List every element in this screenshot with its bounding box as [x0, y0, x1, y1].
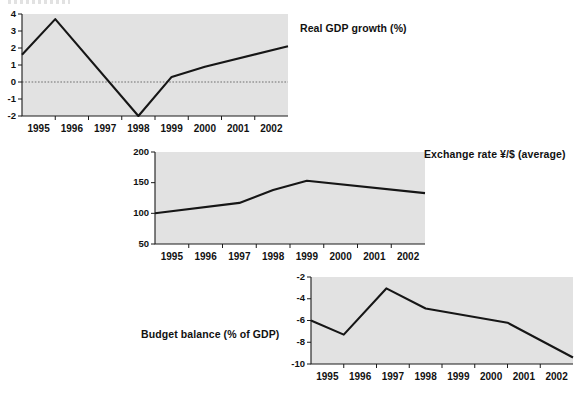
chart-real-gdp-growth: -2-1012341995199619971998199920002001200…: [0, 8, 300, 138]
chart-budget-balance: -10-8-6-4-219951996199719981999200020012…: [285, 272, 581, 394]
y-axis-tick-label: -10: [291, 358, 305, 369]
y-axis-tick-label: 100: [133, 207, 149, 218]
page-top-artifact: [8, 0, 70, 4]
x-axis-tick-label: 1998: [127, 123, 150, 134]
x-axis-tick-label: 1998: [262, 251, 285, 262]
x-axis-tick-label: 2001: [363, 251, 386, 262]
y-axis-tick-label: 0: [11, 76, 16, 87]
chart-exchange-rate: 5010015020019951996199719981999200020012…: [120, 146, 430, 271]
y-axis-tick-label: 150: [133, 176, 149, 187]
plot-background: [155, 152, 425, 244]
x-axis-tick-label: 1997: [382, 371, 405, 382]
x-axis-tick-label: 1997: [228, 251, 251, 262]
x-axis-tick-label: 2000: [480, 371, 503, 382]
chart-title-budget-balance: Budget balance (% of GDP): [141, 328, 279, 340]
x-axis-tick-label: 1996: [195, 251, 218, 262]
y-axis-tick-label: 2: [11, 42, 16, 53]
y-axis-tick-label: 3: [11, 25, 16, 36]
x-axis-tick-label: 1999: [447, 371, 470, 382]
x-axis-tick-label: 2001: [227, 123, 250, 134]
x-axis-tick-label: 1999: [161, 123, 184, 134]
y-axis-tick-label: 4: [11, 8, 17, 19]
chart-panel-budget-balance: -10-8-6-4-219951996199719981999200020012…: [285, 272, 581, 394]
y-axis-tick-label: -8: [297, 336, 305, 347]
x-axis-tick-label: 1998: [415, 371, 438, 382]
x-axis-tick-label: 1995: [161, 251, 184, 262]
x-axis-tick-label: 2002: [546, 371, 569, 382]
chart-title-real-gdp-growth: Real GDP growth (%): [300, 22, 407, 34]
x-axis-tick-label: 1997: [94, 123, 117, 134]
y-axis-tick-label: -2: [297, 272, 305, 282]
x-axis-tick-label: 2000: [194, 123, 217, 134]
chart-title-exchange-rate: Exchange rate ¥/$ (average): [424, 148, 566, 160]
y-axis-tick-label: 200: [133, 146, 149, 157]
chart-panel-real-gdp-growth: -2-1012341995199619971998199920002001200…: [0, 8, 300, 138]
plot-background: [22, 14, 288, 116]
x-axis-tick-label: 1995: [316, 371, 339, 382]
y-axis-tick-label: -6: [297, 314, 305, 325]
y-axis-tick-label: -4: [297, 292, 306, 303]
x-axis-tick-label: 2000: [330, 251, 353, 262]
y-axis-tick-label: 1: [11, 59, 17, 70]
y-axis-tick-label: -2: [8, 110, 16, 121]
x-axis-tick-label: 2002: [397, 251, 420, 262]
x-axis-tick-label: 1995: [28, 123, 51, 134]
chart-panel-exchange-rate: 5010015020019951996199719981999200020012…: [120, 146, 430, 271]
x-axis-tick-label: 2002: [260, 123, 283, 134]
plot-background: [311, 277, 573, 364]
x-axis-tick-label: 1996: [349, 371, 372, 382]
y-axis-tick-label: 50: [138, 238, 149, 249]
y-axis-tick-label: -1: [8, 93, 17, 104]
x-axis-tick-label: 1999: [296, 251, 319, 262]
x-axis-tick-label: 1996: [61, 123, 84, 134]
x-axis-tick-label: 2001: [513, 371, 536, 382]
